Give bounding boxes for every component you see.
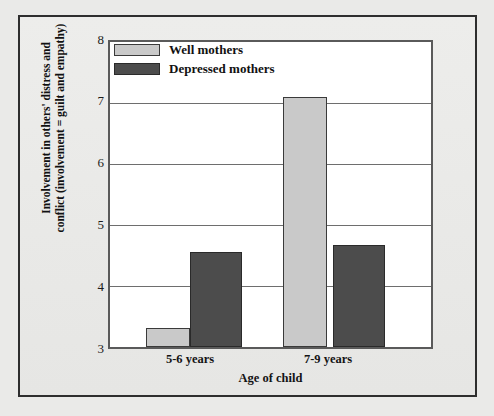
legend-label-well-mothers: Well mothers [169, 43, 243, 57]
y-tick-7: 7 [82, 94, 104, 107]
bar-well-7-9-years[interactable] [283, 97, 327, 347]
chart-figure: 8 7 6 5 4 3 Involvement in others' distr… [0, 0, 494, 416]
bar-depressed-7-9-years[interactable] [333, 245, 385, 347]
legend-swatch-well-mothers [114, 44, 160, 56]
gridline-7 [110, 103, 431, 104]
y-axis-title: Involvement in others' distress and conf… [39, 0, 67, 258]
y-tick-3: 3 [82, 342, 104, 355]
bar-depressed-5-6-years[interactable] [190, 252, 242, 347]
y-axis-tick-labels: 8 7 6 5 4 3 [80, 40, 104, 349]
plot-area: Well mothers Depressed mothers [108, 40, 433, 349]
y-tick-5: 5 [82, 218, 104, 231]
legend-label-depressed-mothers: Depressed mothers [169, 62, 275, 76]
y-tick-4: 4 [82, 280, 104, 293]
gridline-6 [110, 164, 431, 165]
y-axis-title-line-2: conflict (involvement = guilt and empath… [53, 0, 67, 258]
x-axis-title: Age of child [108, 371, 433, 386]
x-tick-label-5-6-years: 5-6 years [130, 352, 250, 366]
y-tick-6: 6 [82, 156, 104, 169]
x-tick-label-7-9-years: 7-9 years [268, 352, 388, 366]
y-axis-title-line-1: Involvement in others' distress and [39, 0, 53, 258]
gridline-5 [110, 225, 431, 226]
legend-entry-well-mothers[interactable]: Well mothers [114, 43, 324, 57]
y-tick-8: 8 [82, 33, 104, 46]
bar-well-5-6-years[interactable] [146, 328, 190, 347]
legend-swatch-depressed-mothers [114, 63, 160, 75]
legend: Well mothers Depressed mothers [114, 43, 324, 81]
legend-entry-depressed-mothers[interactable]: Depressed mothers [114, 62, 324, 76]
